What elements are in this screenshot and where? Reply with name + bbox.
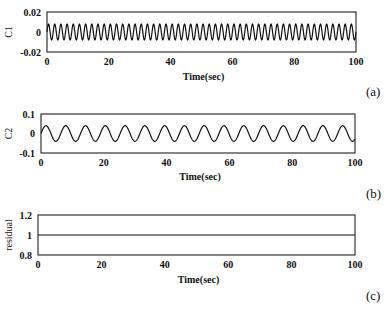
panel-label: (c): [366, 288, 380, 303]
x-tick-label: 40: [160, 259, 170, 270]
y-tick-label: 0: [30, 128, 35, 139]
x-tick-label: 0: [36, 259, 41, 270]
y-tick-label: 0: [36, 27, 41, 38]
x-tick-label: 60: [224, 157, 234, 168]
panel-c-residual-plot: 1.210.8020406080100Time(sec)residual(c): [3, 210, 380, 304]
panel-a-c1-plot: 0.020-0.02020406080100Time(sec)C1(a): [3, 7, 380, 100]
x-tick-label: 20: [104, 56, 114, 67]
series-line-C2: [41, 126, 355, 142]
y-tick-label: 1.2: [20, 210, 33, 221]
y-axis-label: residual: [3, 219, 14, 251]
x-tick-label: 20: [99, 157, 109, 168]
y-tick-label: -0.1: [19, 148, 35, 159]
x-tick-label: 20: [96, 259, 106, 270]
x-tick-label: 60: [227, 56, 237, 67]
x-tick-label: 40: [166, 56, 176, 67]
panel-label: (a): [366, 84, 380, 99]
y-tick-label: 1: [27, 230, 32, 241]
series-line-C1: [47, 24, 356, 40]
x-tick-label: 0: [39, 157, 44, 168]
x-axis-label: Time(sec): [179, 171, 220, 183]
y-axis-label: C2: [3, 128, 14, 140]
x-tick-label: 40: [162, 157, 172, 168]
x-tick-label: 0: [45, 56, 50, 67]
panel-label: (b): [366, 186, 381, 201]
figure: 0.020-0.02020406080100Time(sec)C1(a) 0.1…: [0, 0, 389, 311]
x-tick-label: 80: [287, 157, 297, 168]
x-axis-label: Time(sec): [183, 71, 224, 83]
x-tick-label: 80: [289, 56, 299, 67]
y-tick-label: 0.1: [23, 109, 36, 120]
y-axis-label: C1: [3, 26, 14, 38]
panel-b-c2-plot: 0.10-0.1020406080100Time(sec)C2(b): [3, 109, 381, 202]
y-tick-label: 0.8: [20, 250, 33, 261]
y-tick-label: -0.02: [20, 47, 41, 58]
x-tick-label: 100: [348, 157, 363, 168]
x-tick-label: 80: [287, 259, 297, 270]
x-tick-label: 100: [349, 56, 364, 67]
x-axis-label: Time(sec): [178, 274, 219, 286]
y-tick-label: 0.02: [24, 7, 42, 18]
x-tick-label: 100: [348, 259, 363, 270]
x-tick-label: 60: [223, 259, 233, 270]
